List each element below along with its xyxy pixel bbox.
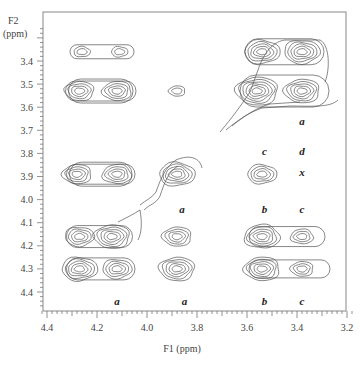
- contour-line: [72, 231, 88, 242]
- contour-line: [75, 233, 85, 239]
- x-axis-label: F1 (ppm): [163, 343, 201, 355]
- contour-line: [77, 49, 87, 55]
- x-tick-label: 3.8: [191, 322, 204, 333]
- contour-ridge: [232, 102, 300, 126]
- contour-line: [108, 86, 125, 97]
- contour-line: [112, 88, 122, 94]
- contour-ridge: [140, 157, 202, 205]
- contour-line: [257, 266, 267, 272]
- x-tick-label: 4.0: [141, 322, 154, 333]
- peak-annotations: acdxabcaabc: [114, 115, 305, 307]
- contour-ridge: [118, 210, 141, 240]
- contour-line: [297, 266, 307, 272]
- contour-line: [172, 234, 182, 240]
- y-tick-label: 3.9: [21, 171, 34, 182]
- contour-line: [293, 264, 310, 275]
- contour-line: [239, 79, 276, 103]
- peak-label: c: [300, 203, 305, 215]
- peak-label: c: [300, 295, 305, 307]
- y-tick-label: 3.5: [21, 79, 34, 90]
- y-tick-label: 3.7: [21, 125, 34, 136]
- contour-line: [112, 46, 128, 57]
- contour-line: [172, 266, 182, 272]
- peak-label: x: [298, 166, 305, 178]
- y-tick-label: 4.4: [21, 287, 34, 298]
- y-tick-label: 4.1: [21, 217, 34, 228]
- peak-label: a: [114, 295, 120, 307]
- contour-envelope: [70, 162, 133, 186]
- contour-line: [112, 171, 122, 177]
- contour-layer: [61, 39, 338, 282]
- contour-line: [75, 88, 85, 94]
- x-tick-label: 3.2: [341, 322, 354, 333]
- contour-line: [297, 88, 307, 94]
- contour-line: [254, 264, 271, 275]
- y-axis-label-line1: F2: [8, 15, 19, 26]
- contour-line: [104, 232, 120, 243]
- contour-line: [297, 49, 307, 55]
- y-tick-label: 3.4: [21, 56, 34, 67]
- contour-line: [257, 171, 267, 177]
- nmr-contour-plot: 3.43.53.63.73.83.94.04.14.24.34.4 4.44.2…: [0, 0, 360, 370]
- peak-label: c: [262, 145, 267, 157]
- y-tick-label: 3.6: [21, 102, 34, 113]
- contour-line: [248, 41, 277, 61]
- contour-line: [234, 77, 277, 105]
- contour-line: [74, 266, 84, 272]
- y-tick-label: 3.8: [21, 148, 34, 159]
- contour-line: [71, 263, 88, 274]
- contour-line: [172, 88, 182, 94]
- peak-label: a: [179, 203, 185, 215]
- peak-label: b: [262, 203, 268, 215]
- x-tick-label: 4.2: [91, 322, 104, 333]
- contour-line: [283, 79, 319, 103]
- peak-label: b: [262, 295, 268, 307]
- contour-line: [252, 88, 262, 94]
- contour-line: [61, 165, 91, 184]
- y-tick-label: 4.2: [21, 240, 34, 251]
- contour-line: [169, 264, 185, 275]
- contour-line: [297, 234, 307, 240]
- peak-label: a: [182, 295, 188, 307]
- contour-line: [74, 46, 90, 57]
- x-tick-label: 3.4: [291, 322, 304, 333]
- contour-line: [115, 49, 125, 55]
- contour-line: [169, 232, 186, 243]
- contour-line: [254, 169, 271, 180]
- contour-line: [162, 260, 192, 279]
- contour-line: [253, 46, 270, 57]
- contour-line: [107, 233, 117, 239]
- contour-line: [168, 169, 185, 180]
- contour-envelope: [69, 79, 134, 103]
- contour-line: [108, 169, 125, 179]
- contour-line: [72, 86, 88, 97]
- y-axis-label-line2: (ppm): [3, 28, 27, 40]
- x-tick-label: 3.6: [241, 322, 254, 333]
- x-axis: 4.44.24.03.83.63.43.2: [41, 311, 354, 333]
- x-tick-label: 4.4: [41, 322, 54, 333]
- contour-line: [109, 263, 125, 274]
- y-tick-label: 4.3: [21, 263, 34, 274]
- contour-line: [293, 231, 310, 241]
- contour-line: [294, 86, 310, 97]
- contour-line: [72, 171, 82, 177]
- peak-label: d: [299, 145, 305, 157]
- contour-line: [172, 171, 182, 177]
- contour-line: [69, 169, 86, 180]
- peak-label: a: [299, 115, 305, 127]
- contour-line: [257, 234, 267, 240]
- y-tick-label: 4.0: [21, 194, 34, 205]
- contour-line: [112, 266, 122, 272]
- contour-line: [101, 82, 131, 101]
- y-axis: 3.43.53.63.73.83.94.04.14.24.34.4: [21, 29, 44, 306]
- contour-line: [253, 231, 270, 242]
